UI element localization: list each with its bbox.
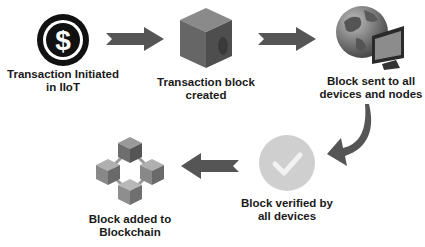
arrow-right-icon (106, 27, 164, 51)
curved-arrow-icon (325, 104, 385, 178)
step3-label: Block sent to all devices and nodes (316, 75, 425, 101)
blockchain-icon (94, 135, 166, 207)
step1-label: Transaction Initiated in IIoT (0, 68, 126, 94)
step5-label: Block added to Blockchain (74, 213, 186, 239)
dollar-coin-icon: $ (35, 12, 91, 68)
step2-label: Transaction block created (146, 76, 266, 102)
check-circle-icon (258, 134, 316, 192)
arrow-left-icon (181, 153, 239, 179)
globe-monitor-icon (334, 4, 410, 72)
arrow-right-icon (258, 27, 316, 51)
cube-block-icon (178, 6, 234, 70)
step4-label: Block verified by all devices (232, 197, 342, 223)
svg-text:$: $ (55, 25, 71, 56)
